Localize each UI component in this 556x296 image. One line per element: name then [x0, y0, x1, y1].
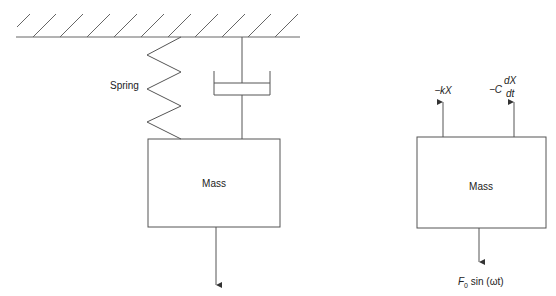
- spring-label: Spring: [110, 80, 139, 91]
- fbd-mass-label: Mass: [469, 181, 493, 192]
- damper: [214, 37, 270, 139]
- diagram-canvas: Spring Mass Mass −kX −C dX dt F0 sin (ωt…: [0, 0, 556, 296]
- ceiling: [16, 14, 300, 37]
- excitation-force-label: F0 sin (ωt): [458, 276, 504, 289]
- svg-text:dX: dX: [504, 75, 517, 86]
- damping-force-label: −C dX dt: [489, 75, 517, 99]
- svg-text:F0 sin (ωt): F0 sin (ωt): [458, 276, 504, 289]
- svg-text:dt: dt: [506, 88, 516, 99]
- ceiling-hatching: [17, 14, 298, 37]
- spring-force-label: −kX: [434, 85, 452, 96]
- spring: [147, 37, 181, 139]
- mass-label: Mass: [202, 178, 226, 189]
- svg-text:−C: −C: [489, 84, 503, 95]
